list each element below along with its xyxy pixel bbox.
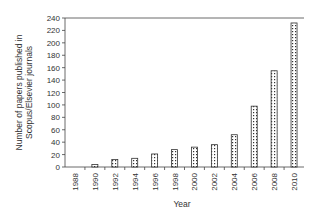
x-tick-label: 1998 [171, 172, 180, 190]
x-tick-label: 1996 [151, 172, 160, 190]
bars [92, 23, 297, 167]
y-axis: 020406080100120140160180200220240 [47, 14, 65, 172]
y-tick-label: 100 [47, 101, 61, 110]
y-tick-label: 80 [51, 113, 60, 122]
bar-1994 [132, 158, 138, 167]
x-tick-label: 1992 [111, 172, 120, 190]
y-tick-label: 200 [47, 39, 61, 48]
y-tick-label: 180 [47, 51, 61, 60]
bar-2008 [271, 71, 277, 167]
y-axis-title-line: Number of papers published in [14, 34, 24, 150]
x-tick-label: 2006 [250, 172, 259, 190]
bar-2002 [211, 145, 217, 167]
x-tick-label: 2002 [210, 172, 219, 190]
bar-2006 [251, 106, 257, 167]
y-tick-label: 220 [47, 26, 61, 35]
x-tick-label: 2004 [230, 172, 239, 190]
bar-1990 [92, 165, 98, 167]
x-tick-label: 1988 [71, 172, 80, 190]
bar-1998 [172, 150, 178, 167]
y-tick-label: 120 [47, 89, 61, 98]
x-tick-label: 1990 [91, 172, 100, 190]
x-axis-title: Year [173, 199, 190, 209]
bar-chart: 020406080100120140160180200220240 198819… [0, 0, 314, 216]
y-axis-title: Number of papers published inScopus/Else… [14, 34, 34, 150]
bar-1992 [112, 160, 118, 167]
y-tick-label: 40 [51, 138, 60, 147]
y-tick-label: 160 [47, 64, 61, 73]
y-tick-label: 0 [56, 163, 61, 172]
y-tick-label: 20 [51, 151, 60, 160]
bar-2000 [191, 147, 197, 167]
bar-2004 [231, 135, 237, 167]
x-tick-label: 2010 [290, 172, 299, 190]
y-tick-label: 240 [47, 14, 61, 23]
bar-2010 [291, 23, 297, 167]
x-axis: 1988199019921994199619982000200220042006… [71, 167, 299, 191]
y-axis-title-line: Scopus/Elsevier journals [24, 46, 34, 139]
x-tick-label: 1994 [131, 172, 140, 190]
x-tick-label: 2008 [270, 172, 279, 190]
y-tick-label: 140 [47, 76, 61, 85]
bar-1996 [152, 154, 158, 167]
plot-frame [65, 18, 304, 167]
x-tick-label: 2000 [190, 172, 199, 190]
y-tick-label: 60 [51, 126, 60, 135]
